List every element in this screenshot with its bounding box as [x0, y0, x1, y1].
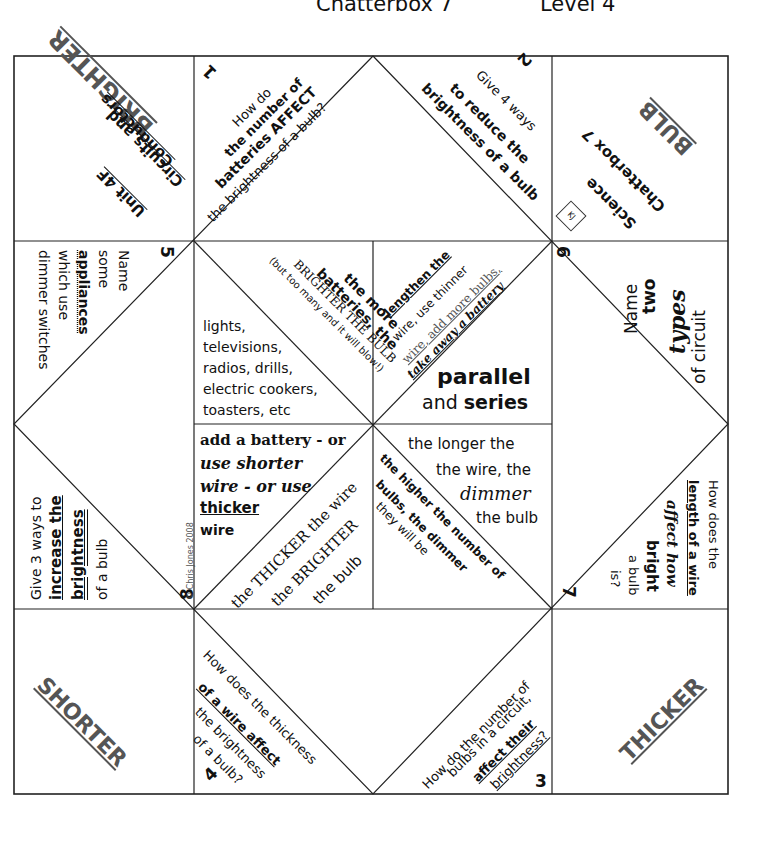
copyright: © Chris Jones 2008 — [186, 522, 195, 600]
question-number-6: 6 — [552, 246, 572, 258]
question-number-7: 7 — [558, 586, 578, 598]
answer-6-and: and — [422, 391, 458, 413]
answer-6-series: series — [464, 391, 528, 413]
question-number-5: 5 — [156, 246, 176, 258]
question-number-3: 3 — [535, 772, 547, 792]
